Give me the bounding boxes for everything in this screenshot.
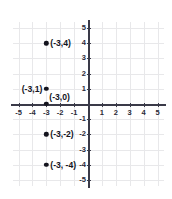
y-tick-label: -2 <box>77 131 86 139</box>
data-point-label: (-3,1) <box>22 85 43 94</box>
x-axis-tick <box>19 103 20 107</box>
data-point <box>44 132 48 136</box>
y-axis-tick <box>87 150 91 151</box>
coordinate-plane-graph: -5-4-3-2-112345 54321-1-2-3-4-5 (-3,4)(-… <box>0 0 172 199</box>
y-axis <box>88 20 90 188</box>
y-axis-tick <box>87 119 91 120</box>
data-point <box>44 41 48 45</box>
y-axis-tick <box>87 89 91 90</box>
x-tick-label: 2 <box>114 109 118 117</box>
x-axis-tick <box>144 103 145 107</box>
y-tick-label: 1 <box>77 85 86 93</box>
y-axis-tick <box>87 134 91 135</box>
data-point <box>44 87 48 91</box>
y-axis-tick <box>87 28 91 29</box>
x-tick-label: 5 <box>155 109 159 117</box>
data-point <box>44 163 48 167</box>
y-tick-label: 3 <box>77 55 86 63</box>
data-point-label: (-3, -4) <box>50 161 76 170</box>
y-tick-label: 2 <box>77 70 86 78</box>
x-tick-label: -3 <box>43 109 50 117</box>
y-tick-label: -1 <box>77 115 86 123</box>
data-point-label: (-3,0) <box>49 93 70 102</box>
y-axis-tick <box>87 74 91 75</box>
x-tick-label: -4 <box>29 109 36 117</box>
x-tick-label: 1 <box>100 109 104 117</box>
y-tick-label: 4 <box>77 39 86 47</box>
data-point-label: (-3,4) <box>50 39 71 48</box>
y-tick-label: 5 <box>77 24 86 32</box>
y-tick-label: -5 <box>77 176 86 184</box>
y-axis-tick <box>87 43 91 44</box>
y-tick-label: -3 <box>77 146 86 154</box>
x-axis-tick <box>74 103 75 107</box>
x-tick-label: 4 <box>142 109 146 117</box>
x-axis-tick <box>116 103 117 107</box>
x-tick-label: 3 <box>128 109 132 117</box>
x-axis-tick <box>60 103 61 107</box>
y-axis-tick <box>87 165 91 166</box>
x-tick-label: -2 <box>57 109 64 117</box>
y-axis-tick <box>87 58 91 59</box>
y-tick-label: -4 <box>77 161 86 169</box>
x-axis-tick <box>158 103 159 107</box>
y-axis-tick <box>87 180 91 181</box>
x-tick-label: -5 <box>15 109 22 117</box>
data-point-label: (-3,-2) <box>50 130 73 139</box>
x-axis-tick <box>102 103 103 107</box>
x-axis-tick <box>130 103 131 107</box>
x-axis-tick <box>32 103 33 107</box>
